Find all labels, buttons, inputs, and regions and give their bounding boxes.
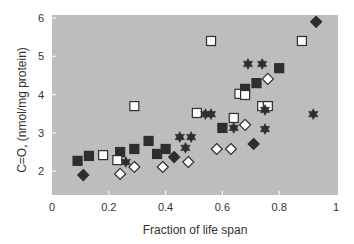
data-point (241, 90, 250, 99)
data-point (161, 144, 170, 153)
x-tick-label: 0.8 (272, 201, 287, 213)
data-point (192, 108, 201, 117)
x-tick-label: 0 (49, 201, 55, 213)
data-point (99, 151, 108, 160)
x-tick-label: 1 (333, 201, 339, 213)
data-point (130, 102, 139, 111)
data-point (84, 151, 93, 160)
y-tick-label: 3 (38, 127, 44, 139)
scatter-chart: 23456 00.20.40.60.81 Fraction of life sp… (0, 0, 354, 244)
data-point (207, 36, 216, 45)
y-axis-title: C=O, (nmol/mg protein) (15, 47, 29, 173)
data-point (218, 123, 227, 132)
data-point (229, 113, 238, 122)
y-tick-label: 4 (38, 89, 44, 101)
x-tick-label: 0.6 (215, 201, 230, 213)
data-point (144, 136, 153, 145)
y-tick-label: 6 (38, 12, 44, 24)
data-point (130, 144, 139, 153)
y-tick-label: 5 (38, 50, 44, 62)
x-axis-title: Fraction of life span (143, 223, 248, 237)
data-point (297, 36, 306, 45)
data-point (73, 156, 82, 165)
data-point (275, 64, 284, 73)
data-point (252, 79, 261, 88)
data-point (153, 149, 162, 158)
x-tick-label: 0.2 (101, 201, 116, 213)
data-point (113, 156, 122, 165)
x-tick-label: 0.4 (158, 201, 173, 213)
plot-area (52, 15, 338, 195)
y-tick-label: 2 (38, 165, 44, 177)
